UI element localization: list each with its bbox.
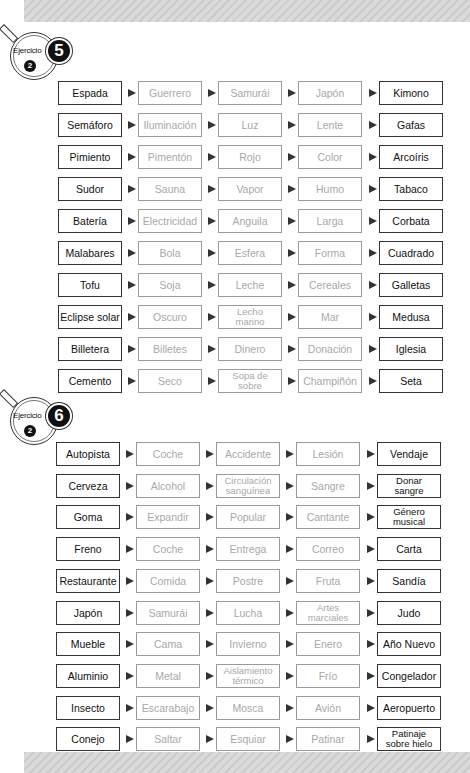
arrow-right-icon [286, 735, 294, 743]
word-chain-row: AluminioMetalAislamiento térmicoFríoCong… [56, 664, 446, 690]
blank-word-box[interactable]: Entrega [216, 537, 280, 561]
blank-word-box[interactable]: Lecho marino [218, 305, 282, 329]
start-word-box: Aluminio [56, 664, 120, 688]
blank-word-box[interactable]: Lesión [296, 442, 360, 466]
blank-word-box[interactable]: Alcohol [136, 474, 200, 498]
blank-word-box[interactable]: Oscuro [138, 305, 202, 329]
blank-word-box[interactable]: Aislamiento térmico [216, 664, 280, 688]
blank-word-box[interactable]: Electricidad [138, 209, 202, 233]
bottom-decorative-band [24, 752, 470, 773]
arrow-right-icon [369, 345, 377, 353]
blank-word-box[interactable]: Bola [138, 241, 202, 265]
word-chain-row: FrenoCocheEntregaCorreoCarta [56, 537, 446, 563]
blank-word-box[interactable]: Esquiar [216, 727, 280, 751]
blank-word-box[interactable]: Expandir [136, 505, 200, 529]
blank-word-box[interactable]: Metal [136, 664, 200, 688]
start-word-box: Mueble [56, 632, 120, 656]
blank-word-box[interactable]: Mar [298, 305, 362, 329]
blank-word-box[interactable]: Sangre [296, 474, 360, 498]
exercise-number: 6 [46, 403, 72, 429]
end-word-box: Donar sangre [377, 474, 441, 498]
blank-word-box[interactable]: Japón [298, 81, 362, 105]
blank-word-box[interactable]: Luz [218, 113, 282, 137]
end-word-box: Vendaje [377, 442, 441, 466]
exercise-label: Ejercicio [13, 46, 41, 55]
blank-word-box[interactable]: Postre [216, 569, 280, 593]
blank-word-box[interactable]: Coche [136, 442, 200, 466]
blank-word-box[interactable]: Cereales [298, 273, 362, 297]
arrow-right-icon [206, 450, 214, 458]
blank-word-box[interactable]: Forma [298, 241, 362, 265]
arrow-right-icon [128, 377, 136, 385]
blank-word-box[interactable]: Billetes [138, 337, 202, 361]
blank-word-box[interactable]: Color [298, 145, 362, 169]
blank-word-box[interactable]: Lucha [216, 601, 280, 625]
arrow-right-icon [367, 577, 375, 585]
blank-word-box[interactable]: Dinero [218, 337, 282, 361]
blank-word-box[interactable]: Humo [298, 177, 362, 201]
arrow-right-icon [367, 513, 375, 521]
start-word-box: Insecto [56, 696, 120, 720]
arrow-right-icon [208, 153, 216, 161]
blank-word-box[interactable]: Vapor [218, 177, 282, 201]
blank-word-box[interactable]: Pimentón [138, 145, 202, 169]
arrow-right-icon [367, 450, 375, 458]
exercise-5-badge: Ejercicio 5 2 [0, 22, 90, 82]
blank-word-box[interactable]: Cantante [296, 505, 360, 529]
blank-word-box[interactable]: Fruta [296, 569, 360, 593]
arrow-right-icon [206, 609, 214, 617]
blank-word-box[interactable]: Anguila [218, 209, 282, 233]
end-word-box: Congelador [377, 664, 441, 688]
blank-word-box[interactable]: Mosca [216, 696, 280, 720]
blank-word-box[interactable]: Samurái [218, 81, 282, 105]
arrow-right-icon [286, 513, 294, 521]
top-decorative-band [24, 0, 470, 22]
blank-word-box[interactable]: Soja [138, 273, 202, 297]
start-word-box: Billetera [58, 337, 122, 361]
blank-word-box[interactable]: Correo [296, 537, 360, 561]
arrow-right-icon [367, 545, 375, 553]
blank-word-box[interactable]: Sauna [138, 177, 202, 201]
arrow-right-icon [128, 281, 136, 289]
end-word-box: Corbata [379, 209, 443, 233]
blank-word-box[interactable]: Frío [296, 664, 360, 688]
blank-word-box[interactable]: Leche [218, 273, 282, 297]
blank-word-box[interactable]: Invierno [216, 632, 280, 656]
blank-word-box[interactable]: Escarabajo [136, 696, 200, 720]
blank-word-box[interactable]: Iluminación [138, 113, 202, 137]
blank-word-box[interactable]: Artes marciales [296, 601, 360, 625]
blank-word-box[interactable]: Rojo [218, 145, 282, 169]
blank-word-box[interactable]: Seco [138, 369, 202, 393]
blank-word-box[interactable]: Patinar [296, 727, 360, 751]
blank-word-box[interactable]: Avión [296, 696, 360, 720]
arrow-right-icon [126, 640, 134, 648]
arrow-right-icon [126, 513, 134, 521]
blank-word-box[interactable]: Samurái [136, 601, 200, 625]
end-word-box: Gafas [379, 113, 443, 137]
blank-word-box[interactable]: Cama [136, 632, 200, 656]
blank-word-box[interactable]: Champiñón [298, 369, 362, 393]
arrow-right-icon [369, 217, 377, 225]
blank-word-box[interactable]: Guerrero [138, 81, 202, 105]
blank-word-box[interactable]: Accidente [216, 442, 280, 466]
blank-word-box[interactable]: Esfera [218, 241, 282, 265]
blank-word-box[interactable]: Popular [216, 505, 280, 529]
arrow-right-icon [206, 672, 214, 680]
arrow-right-icon [128, 185, 136, 193]
blank-word-box[interactable]: Coche [136, 537, 200, 561]
arrow-right-icon [126, 577, 134, 585]
blank-word-box[interactable]: Circulación sanguínea [216, 474, 280, 498]
blank-word-box[interactable]: Comida [136, 569, 200, 593]
blank-word-box[interactable]: Larga [298, 209, 362, 233]
start-word-box: Cerveza [56, 474, 120, 498]
blank-word-box[interactable]: Saltar [136, 727, 200, 751]
arrow-right-icon [286, 545, 294, 553]
blank-word-box[interactable]: Enero [296, 632, 360, 656]
difficulty-level: 2 [24, 425, 36, 437]
arrow-right-icon [369, 121, 377, 129]
arrow-right-icon [286, 640, 294, 648]
arrow-right-icon [206, 735, 214, 743]
blank-word-box[interactable]: Donación [298, 337, 362, 361]
blank-word-box[interactable]: Lente [298, 113, 362, 137]
blank-word-box[interactable]: Sopa de sobre [218, 369, 282, 393]
